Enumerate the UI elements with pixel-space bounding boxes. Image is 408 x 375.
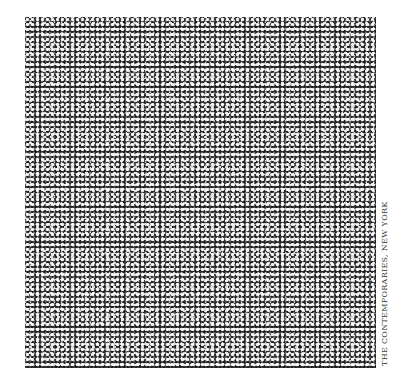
- photo-credit-caption: THE CONTEMPORARIES, NEW YORK: [380, 201, 389, 366]
- artwork-image: [25, 17, 376, 368]
